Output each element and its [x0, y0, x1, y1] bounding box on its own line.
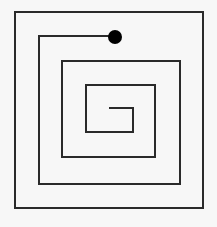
spiral-path	[39, 36, 180, 184]
start-dot-icon	[108, 30, 122, 44]
outer-frame	[15, 12, 203, 208]
spiral-maze-graphic	[0, 0, 217, 227]
spiral-diagram	[0, 0, 217, 227]
